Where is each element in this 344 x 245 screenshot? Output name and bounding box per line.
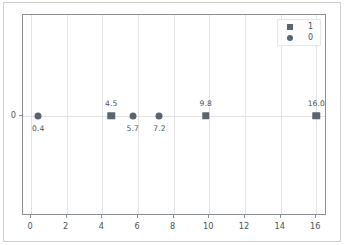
xtick-mark-0 [30,215,31,218]
xtick-label-6: 6 [134,221,139,231]
gridline-y-0 [23,116,325,117]
point-label-5.7: 5.7 [126,124,138,133]
point-label-0.4: 0.4 [32,124,44,133]
gridline-x-0 [31,15,32,214]
xtick-label-16: 16 [310,221,320,231]
legend-item-1[interactable]: 1 [283,23,313,31]
chart-legend[interactable]: 10 [277,19,321,46]
xtick-mark-12 [244,215,245,218]
data-point-square-4.5[interactable] [108,112,116,120]
gridline-x-4 [102,15,103,214]
xtick-mark-6 [137,215,138,218]
ytick-label-0: 0 [4,110,16,120]
circle-marker-icon [283,35,297,42]
point-label-16.0: 16.0 [308,99,325,108]
gridline-x-12 [245,15,246,214]
legend-label: 0 [308,34,313,42]
plot-area: 4.59.816.00.45.77.2 10 [22,14,326,215]
xtick-mark-2 [66,215,67,218]
gridline-x-8 [174,15,175,214]
chart-figure: 4.59.816.00.45.77.2 10 0246810121416 0 [0,0,344,245]
data-point-circle-7.2[interactable] [156,112,163,119]
xtick-mark-14 [280,215,281,218]
xtick-mark-16 [315,215,316,218]
xtick-label-12: 12 [239,221,249,231]
xtick-label-10: 10 [203,221,213,231]
legend-item-0[interactable]: 0 [283,34,313,42]
xtick-mark-8 [173,215,174,218]
xtick-label-4: 4 [99,221,104,231]
xtick-mark-4 [101,215,102,218]
data-point-square-16.0[interactable] [313,112,321,120]
data-point-circle-5.7[interactable] [129,112,136,119]
xtick-label-0: 0 [27,221,32,231]
square-marker-icon [283,24,297,31]
gridline-x-6 [138,15,139,214]
data-point-square-9.8[interactable] [202,112,210,120]
xtick-label-2: 2 [63,221,68,231]
legend-label: 1 [308,23,313,31]
ytick-mark-0 [19,115,22,116]
xtick-label-14: 14 [274,221,284,231]
point-label-4.5: 4.5 [105,99,117,108]
xtick-mark-10 [208,215,209,218]
point-label-7.2: 7.2 [153,124,165,133]
point-label-9.8: 9.8 [200,99,212,108]
data-point-circle-0.4[interactable] [35,112,42,119]
gridline-x-2 [67,15,68,214]
xtick-label-8: 8 [170,221,175,231]
